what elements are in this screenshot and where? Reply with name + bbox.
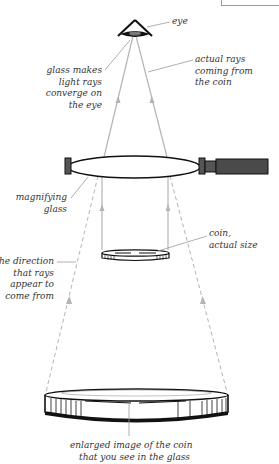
label-line: magnifying	[16, 192, 67, 204]
label-actual-rays: actual rays coming from the coin	[195, 54, 253, 89]
label-line: that you see in the glass	[70, 452, 190, 464]
label-line: the coin	[195, 77, 253, 89]
label-enlarged-image: enlarged image of the coin that you see …	[70, 440, 190, 463]
eye-icon	[118, 20, 152, 37]
label-line: enlarged image of the coin	[70, 440, 190, 452]
label-line: coin,	[209, 228, 258, 240]
label-line: the eye	[46, 100, 102, 112]
magnifying-glass-icon	[65, 156, 268, 178]
actual-ray-arrows-lower	[100, 204, 171, 211]
actual-rays-lower	[102, 177, 168, 250]
label-line: that rays	[0, 268, 54, 280]
label-eye: eye	[172, 16, 188, 28]
converging-ray-arrows	[116, 96, 155, 103]
label-line: actual size	[209, 240, 258, 252]
label-line: glass	[16, 204, 67, 216]
label-line: appear to	[0, 279, 54, 291]
label-line: glass makes	[46, 65, 102, 77]
label-line: come from	[0, 291, 54, 303]
label-line: coming from	[195, 66, 253, 78]
label-line: actual rays	[195, 54, 253, 66]
apparent-ray-arrows	[66, 296, 206, 304]
label-coin-actual: coin, actual size	[209, 228, 258, 251]
label-line: light rays	[46, 77, 102, 89]
label-glass-makes: glass makes light rays converge on the e…	[46, 65, 102, 111]
converging-rays	[104, 36, 167, 157]
apparent-rays	[46, 176, 227, 392]
coin-enlarged-image-icon	[45, 389, 228, 423]
label-magnifying-glass: magnifying glass	[16, 192, 67, 215]
label-line: converge on	[46, 88, 102, 100]
label-line: eye	[172, 16, 188, 28]
coin-actual-icon	[102, 250, 169, 261]
label-line: the direction	[0, 256, 54, 268]
label-direction: the direction that rays appear to come f…	[0, 256, 54, 302]
